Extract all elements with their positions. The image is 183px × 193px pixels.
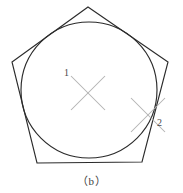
circle-shape xyxy=(21,22,157,158)
figure-caption: （b） xyxy=(0,172,183,188)
cross-marker-2-label: 2 xyxy=(157,118,162,128)
figure-canvas xyxy=(0,0,183,193)
cross-marker-1-label: 1 xyxy=(64,68,69,78)
geometry-figure: 1 2 （b） xyxy=(0,0,183,193)
cross-marker-1 xyxy=(71,76,105,110)
pentagon-shape xyxy=(12,7,168,163)
